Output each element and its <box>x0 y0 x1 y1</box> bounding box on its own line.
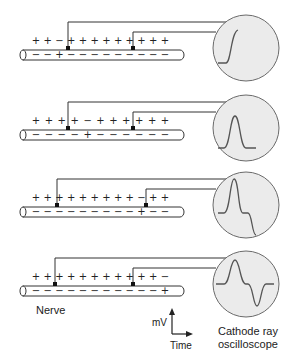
outside-charge: + <box>44 192 52 203</box>
inside-charge: − <box>126 285 134 296</box>
outside-charge: + <box>32 192 40 203</box>
outside-charge: + <box>148 115 156 126</box>
outside-charge: + <box>96 115 104 126</box>
inside-charge: − <box>32 49 40 60</box>
oscilloscope-label-line1: Cathode ray <box>218 325 278 337</box>
inside-charge: − <box>161 206 169 217</box>
outside-charge: + <box>149 271 157 282</box>
inside-charge: − <box>45 129 53 140</box>
inside-charge: − <box>67 206 75 217</box>
inside-charge: − <box>44 285 52 296</box>
nerve-cylinder-end <box>20 207 26 217</box>
recording-row-3: +++++++++−++−−−−−−−−−+−− <box>20 172 279 238</box>
inside-charge: − <box>137 49 145 60</box>
outside-charge: + <box>135 115 143 126</box>
inside-charge: − <box>122 129 130 140</box>
oscilloscope-screen <box>213 172 279 238</box>
nerve-cylinder-end <box>20 130 26 140</box>
outside-charge: + <box>67 271 75 282</box>
outside-charge: + <box>122 115 130 126</box>
nerve-cylinder-end <box>20 50 26 60</box>
inside-charge: − <box>55 285 63 296</box>
outside-charge: + <box>79 271 87 282</box>
outside-charge: + <box>102 35 110 46</box>
outside-charge: + <box>55 271 63 282</box>
nerve-recording-diagram: ++−+++++++++−−+−−−−−−−−−++++−++++++−−−−+… <box>0 0 292 356</box>
outside-charge: + <box>126 192 134 203</box>
nerve-label: Nerve <box>36 304 65 316</box>
outside-charge: + <box>90 192 98 203</box>
electrode-2 <box>144 203 148 207</box>
oscilloscope-screen <box>213 15 279 81</box>
inside-charge: − <box>114 206 122 217</box>
inside-charge: − <box>114 285 122 296</box>
inside-charge: − <box>79 49 87 60</box>
outside-charge: + <box>109 115 117 126</box>
inside-charge: − <box>67 49 75 60</box>
inside-charge: − <box>161 49 169 60</box>
outside-charge: + <box>161 35 169 46</box>
outside-charge: + <box>137 271 145 282</box>
recording-row-2: ++++−++++++−−−−+−−−−−− <box>20 95 279 161</box>
nerve-cylinder-end <box>20 286 26 296</box>
inside-charge: − <box>32 285 40 296</box>
inside-charge: − <box>90 206 98 217</box>
x-axis-arrowhead-icon <box>186 331 193 337</box>
y-axis-label: mV <box>152 317 167 329</box>
inside-charge: − <box>90 49 98 60</box>
outside-charge: + <box>90 35 98 46</box>
inside-charge: − <box>32 129 40 140</box>
outside-charge: + <box>114 35 122 46</box>
inside-charge: − <box>109 129 117 140</box>
inside-charge: − <box>90 285 98 296</box>
inside-charge: − <box>135 129 143 140</box>
outside-charge: − <box>161 271 169 282</box>
outside-charge: + <box>79 192 87 203</box>
inside-charge: − <box>149 206 157 217</box>
electrode-1 <box>55 203 59 207</box>
electrode-2 <box>131 282 135 286</box>
electrode-2 <box>131 126 135 130</box>
outside-charge: + <box>161 192 169 203</box>
inside-charge: − <box>102 49 110 60</box>
inside-charge: − <box>148 129 156 140</box>
electrode-1 <box>53 282 57 286</box>
inside-charge: − <box>149 49 157 60</box>
electrode-1 <box>66 126 70 130</box>
inside-charge: − <box>71 129 79 140</box>
outside-charge: + <box>32 35 40 46</box>
inside-charge: − <box>58 129 66 140</box>
outside-charge: + <box>102 192 110 203</box>
outside-charge: + <box>71 115 79 126</box>
inside-charge: + <box>83 129 91 140</box>
inside-charge: − <box>161 129 169 140</box>
outside-charge: − <box>83 115 91 126</box>
outside-charge: − <box>137 192 145 203</box>
inside-charge: − <box>137 285 145 296</box>
outside-charge: − <box>55 35 63 46</box>
inside-charge: + <box>55 49 63 60</box>
y-axis-arrowhead-icon <box>169 308 175 315</box>
inside-charge: − <box>79 285 87 296</box>
recording-rows: ++−+++++++++−−+−−−−−−−−−++++−++++++−−−−+… <box>20 15 279 317</box>
electrode-1 <box>66 46 70 50</box>
outside-charge: + <box>102 271 110 282</box>
outside-charge: + <box>67 192 75 203</box>
inside-charge: − <box>67 285 75 296</box>
inside-charge: − <box>79 206 87 217</box>
oscilloscope-screen <box>213 95 279 161</box>
oscilloscope-label-line2: oscilloscope <box>218 338 278 350</box>
outside-charge: + <box>45 115 53 126</box>
outside-charge: + <box>79 35 87 46</box>
x-axis-label: Time <box>170 340 192 352</box>
inside-charge: − <box>126 49 134 60</box>
outside-charge: + <box>137 35 145 46</box>
axis-legend <box>169 308 193 337</box>
inside-charge: − <box>102 206 110 217</box>
recording-row-1: ++−+++++++++−−+−−−−−−−−− <box>20 15 279 81</box>
electrode-wire-2 <box>133 112 216 128</box>
inside-charge: − <box>44 206 52 217</box>
outside-charge: + <box>58 115 66 126</box>
outside-charge: + <box>161 115 169 126</box>
outside-charge: + <box>114 271 122 282</box>
